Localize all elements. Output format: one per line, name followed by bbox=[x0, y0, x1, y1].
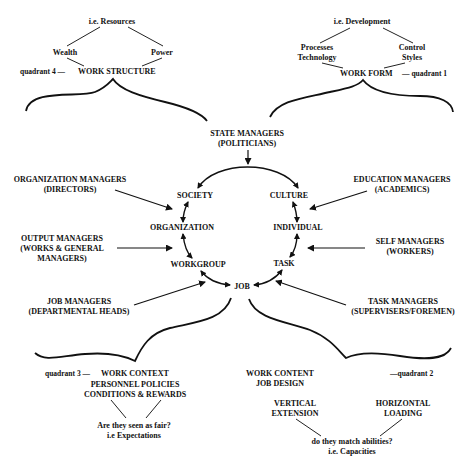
workgroup-job-arc bbox=[201, 271, 230, 285]
society-culture-arc bbox=[198, 167, 298, 188]
loading-label: LOADING bbox=[384, 409, 422, 418]
job-design-label: JOB DESIGN bbox=[256, 379, 304, 388]
conditions-rewards-label: CONDITIONS & REWARDS bbox=[84, 390, 187, 399]
education-managers-label: EDUCATION MANAGERS bbox=[354, 175, 452, 184]
departmental-heads-label: (DEPARTMENTAL HEADS) bbox=[29, 307, 130, 316]
managers-label: MANAGERS) bbox=[37, 254, 87, 263]
central-cycle-group: STATE MANAGERS (POLITICIANS) SOCIETY CUL… bbox=[150, 129, 323, 291]
quadrant-3-label: quadrant 3 — bbox=[45, 369, 91, 378]
organization-node: ORGANIZATION bbox=[150, 223, 214, 232]
development-label: i.e. Development bbox=[334, 17, 391, 26]
connector-line bbox=[146, 400, 161, 418]
task-node: TASK bbox=[273, 259, 295, 268]
connector-line bbox=[320, 28, 350, 43]
technology-label: Technology bbox=[298, 53, 337, 62]
task-managers-label: TASK MANAGERS bbox=[368, 297, 438, 306]
workers-label: (WORKERS) bbox=[386, 247, 433, 256]
horizontal-label: HORIZONTAL bbox=[376, 399, 431, 408]
culture-node: CULTURE bbox=[270, 191, 308, 200]
job-managers-arrow bbox=[134, 282, 205, 305]
work-structure-title: WORK STRUCTURE bbox=[78, 67, 156, 76]
job-task-arc bbox=[254, 270, 282, 285]
works-general-label: (WORKS & GENERAL bbox=[20, 244, 104, 253]
connector-line bbox=[128, 27, 163, 46]
supervisers-foremen-label: (SUPERVISERS/FOREMEN) bbox=[351, 307, 455, 316]
directors-label: (DIRECTORS) bbox=[44, 185, 97, 194]
work-structure-brace bbox=[26, 79, 207, 121]
individual-task-arc bbox=[290, 234, 297, 257]
connector-line bbox=[383, 28, 413, 43]
culture-individual-arc bbox=[293, 202, 297, 222]
society-organization-arc bbox=[183, 202, 188, 222]
work-context-title: WORK CONTEXT bbox=[101, 369, 169, 378]
connector-line bbox=[322, 63, 343, 68]
quadrant-1-group: i.e. Development Processes Technology Co… bbox=[270, 17, 453, 117]
fairness-question: Are they seen as fair? bbox=[97, 421, 171, 430]
organization-workgroup-arc bbox=[183, 234, 192, 258]
quadrant-3-group: quadrant 3 — WORK CONTEXT PERSONNEL POLI… bbox=[45, 369, 187, 440]
connector-line bbox=[67, 58, 84, 66]
politicians-label: (POLITICIANS) bbox=[218, 139, 277, 148]
connector-line bbox=[111, 400, 126, 418]
control-label: Control bbox=[399, 43, 426, 52]
task-managers-arrow bbox=[276, 281, 346, 305]
connector-line bbox=[380, 419, 402, 436]
connector-line bbox=[142, 58, 162, 66]
self-managers-label: SELF MANAGERS bbox=[376, 237, 445, 246]
styles-label: Styles bbox=[402, 53, 422, 62]
academics-label: (ACADEMICS) bbox=[375, 185, 430, 194]
work-design-diagram: i.e. Resources Wealth Power quadrant 4 —… bbox=[0, 0, 473, 469]
workgroup-node: WORKGROUP bbox=[170, 260, 225, 269]
state-managers-label: STATE MANAGERS bbox=[210, 129, 284, 138]
power-label: Power bbox=[151, 48, 173, 57]
quadrant-1-label: — quadrant 1 bbox=[401, 69, 447, 78]
job-managers-label: JOB MANAGERS bbox=[47, 297, 112, 306]
quadrant-2-group: WORK CONTENT —quadrant 2 JOB DESIGN VERT… bbox=[246, 369, 433, 456]
expectations-note: i.e Expectations bbox=[107, 431, 161, 440]
work-form-title: WORK FORM bbox=[340, 69, 393, 78]
quadrant-4-label: quadrant 4 — bbox=[20, 67, 66, 76]
organization-managers-label: ORGANIZATION MANAGERS bbox=[14, 175, 127, 184]
individual-node: INDIVIDUAL bbox=[273, 223, 322, 232]
extension-label: EXTENSION bbox=[271, 409, 318, 418]
connector-line bbox=[67, 27, 100, 46]
wealth-label: Wealth bbox=[53, 48, 78, 57]
output-managers-label: OUTPUT MANAGERS bbox=[21, 234, 103, 243]
society-node: SOCIETY bbox=[177, 191, 213, 200]
education-managers-arrow bbox=[310, 191, 367, 209]
quadrant-2-label: —quadrant 2 bbox=[389, 369, 433, 378]
abilities-question: do they match abilities? bbox=[311, 437, 392, 446]
organization-managers-arrow bbox=[115, 190, 172, 209]
work-content-title: WORK CONTENT bbox=[246, 369, 314, 378]
quadrant-4-group: i.e. Resources Wealth Power quadrant 4 —… bbox=[20, 17, 207, 121]
connector-line bbox=[384, 63, 405, 68]
processes-label: Processes bbox=[301, 43, 333, 52]
job-node: JOB bbox=[234, 282, 250, 291]
connector-line bbox=[296, 419, 321, 436]
resources-label: i.e. Resources bbox=[89, 17, 135, 26]
personnel-policies-label: PERSONNEL POLICIES bbox=[91, 380, 180, 389]
vertical-label: VERTICAL bbox=[274, 399, 316, 408]
capacities-note: i.e. Capacities bbox=[328, 447, 375, 456]
work-form-brace bbox=[270, 80, 453, 117]
